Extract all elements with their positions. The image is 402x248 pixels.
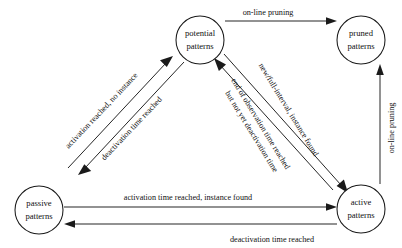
edge-label-potential-to-pruned: on-line pruning [243, 8, 294, 17]
node-label-line2: patterns [347, 41, 375, 51]
edge-potential-to-pruned: on-line pruning [225, 8, 337, 25]
node-label-line1: active [351, 197, 372, 207]
edge-passive-to-active: activation time reached, instance found [64, 193, 337, 211]
diagram-canvas: on-line pruning activation reached, no i… [0, 0, 402, 248]
edge-active-to-pruned: on-line pruning [376, 64, 396, 184]
edge-line [68, 63, 166, 168]
node-label-line1: pruned [349, 28, 374, 38]
node-passive-patterns[interactable]: passive patterns [15, 186, 63, 234]
arrowhead-icon [64, 220, 75, 228]
edge-label-active-to-pruned: on-line pruning [387, 103, 396, 154]
arrowhead-icon [376, 64, 384, 75]
node-label-line2: patterns [347, 210, 375, 220]
node-label-line1: passive [26, 198, 51, 208]
arrowhead-icon [326, 203, 337, 211]
edge-active-to-passive: deactivation time reached [64, 220, 337, 244]
edge-label-active-to-passive: deactivation time reached [230, 235, 314, 244]
arrowhead-icon [160, 56, 173, 67]
node-label-line2: patterns [25, 211, 53, 221]
arrowhead-icon [326, 17, 337, 25]
node-pruned-patterns[interactable]: pruned patterns [337, 16, 385, 64]
edge-label-passive-to-active: activation time reached, instance found [124, 193, 252, 202]
edge-label-potential-to-active: new/full-interval, instance found [257, 62, 321, 158]
state-transition-diagram: on-line pruning activation reached, no i… [0, 0, 402, 248]
node-potential-patterns[interactable]: potential patterns [176, 16, 224, 64]
arrowhead-icon [78, 164, 91, 175]
node-label-line1: potential [185, 28, 216, 38]
node-active-patterns[interactable]: active patterns [337, 185, 385, 233]
edge-passive-to-potential: activation reached, no instance [64, 56, 173, 168]
node-label-line2: patterns [186, 41, 214, 51]
